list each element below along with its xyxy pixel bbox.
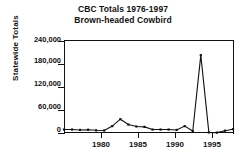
x-tick-mark — [175, 133, 176, 138]
chart-subtitle: Brown-headed Cowbird — [0, 15, 246, 26]
x-tick-label: 1995 — [203, 140, 221, 149]
x-tick-label: 1985 — [129, 140, 147, 149]
x-tick-mark — [101, 133, 102, 138]
x-tick-mark — [212, 133, 213, 138]
x-tick-label: 1990 — [166, 140, 184, 149]
chart-title: CBC Totals 1976-1997 — [0, 4, 246, 15]
x-tick-label: 1980 — [92, 140, 110, 149]
plot-top-border — [64, 40, 234, 41]
plot-right-border — [233, 40, 234, 134]
x-tick-mark — [138, 133, 139, 138]
plot-area — [64, 40, 234, 133]
y-axis-tick-labels: 0 60,000 120,000 180,000 240,000 — [12, 36, 61, 138]
chart-title-block: CBC Totals 1976-1997 Brown-headed Cowbir… — [0, 4, 246, 26]
y-tick-label: 240,000 — [34, 36, 61, 44]
y-tick-mark — [58, 133, 65, 134]
chart-container: CBC Totals 1976-1997 Brown-headed Cowbir… — [0, 0, 246, 162]
